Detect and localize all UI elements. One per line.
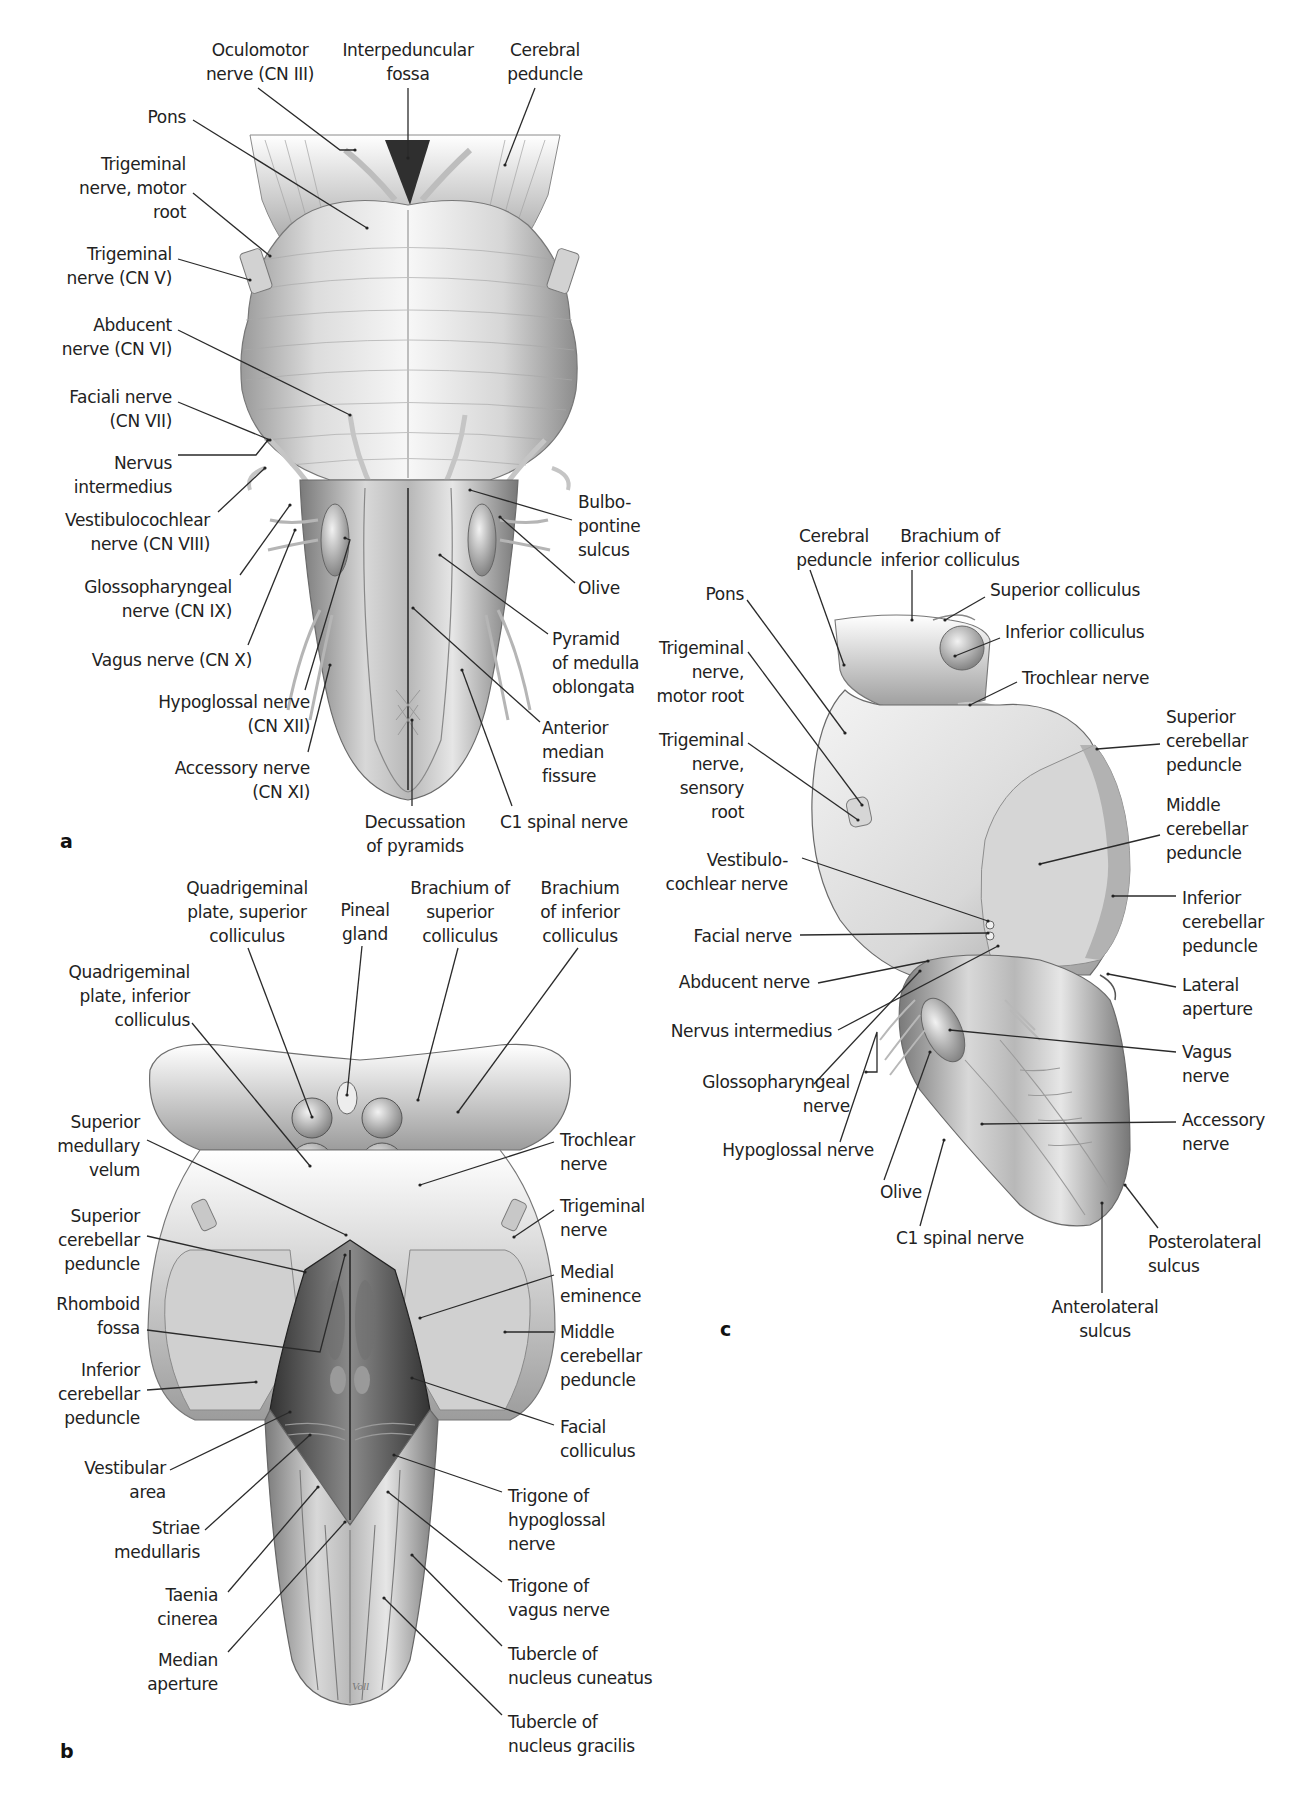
label-c-superior-colliculus-c: Superior colliculus <box>990 578 1190 602</box>
label-b-pineal: Pineal gland <box>330 898 400 946</box>
leader-a-nervus-intermedius <box>178 440 268 455</box>
label-c-anterolateral-c: Anterolateral sulcus <box>1030 1295 1180 1343</box>
label-b-middle-cerebellar-b: Middle cerebellar peduncle <box>560 1320 660 1392</box>
panel-c-illustration <box>812 615 1130 1226</box>
label-b-vestibular-area: Vestibular area <box>40 1456 166 1504</box>
label-a-anterior-median: Anterior median fissure <box>542 716 642 788</box>
label-c-lateral-aperture-c: Lateral aperture <box>1182 973 1302 1021</box>
label-c-vestibulocochlear-c: Vestibulo- cochlear nerve <box>640 848 788 896</box>
label-a-olive: Olive <box>578 576 658 600</box>
label-b-trigone-vagus: Trigone of vagus nerve <box>508 1574 628 1622</box>
label-a-glossopharyngeal: Glossopharyngeal nerve (CN IX) <box>20 575 232 623</box>
label-c-brachium-inf-c: Brachium of inferior colliculus <box>852 524 1048 572</box>
label-c-hypoglossal-c: Hypoglossal nerve <box>640 1138 874 1162</box>
label-a-c1-spinal: C1 spinal nerve <box>500 810 660 834</box>
label-c-inf-cerebellar-c: Inferior cerebellar peduncle <box>1182 886 1302 958</box>
label-a-abducent: Abducent nerve (CN VI) <box>30 313 172 361</box>
panel-letter-b: b <box>60 1740 74 1762</box>
panel-letter-a: a <box>60 830 73 852</box>
label-a-facial: Faciali nerve (CN VII) <box>30 385 172 433</box>
label-c-posterolateral-c: Posterolateral sulcus <box>1148 1230 1288 1278</box>
label-c-accessory-c: Accessory nerve <box>1182 1108 1302 1156</box>
label-b-trigone-hypoglossal: Trigone of hypoglossal nerve <box>508 1484 628 1556</box>
figure-stage: Voll <box>0 0 1312 1804</box>
label-b-qp-inferior: Quadrigeminal plate, inferior colliculus <box>40 960 190 1032</box>
label-b-brachium-inf: Brachium of inferior colliculus <box>530 876 630 948</box>
label-c-trigeminal-sensory-c: Trigeminal nerve, sensory root <box>640 728 744 824</box>
label-c-trigeminal-motor-c: Trigeminal nerve, motor root <box>640 636 744 708</box>
label-b-inf-cerebellar-ped: Inferior cerebellar peduncle <box>40 1358 140 1430</box>
label-a-hypoglossal: Hypoglossal nerve (CN XII) <box>20 690 310 738</box>
leader-a-vestibulocochlear <box>218 468 265 512</box>
label-b-tubercle-cuneatus: Tubercle of nucleus cuneatus <box>508 1642 668 1690</box>
label-c-olive-c: Olive <box>880 1180 940 1204</box>
label-c-sup-cerebellar-c: Superior cerebellar peduncle <box>1166 705 1286 777</box>
panel-letter-c: c <box>720 1318 731 1340</box>
leader-a-trigeminal-motor <box>193 193 270 256</box>
label-a-nervus-intermedius: Nervus intermedius <box>30 451 172 499</box>
label-c-inferior-colliculus-c: Inferior colliculus <box>1005 620 1205 644</box>
leader-c-lateral-aperture-c <box>1108 974 1176 987</box>
label-c-c1-spinal-c: C1 spinal nerve <box>880 1226 1040 1250</box>
label-a-bulbopontine: Bulbo- pontine sulcus <box>578 490 658 562</box>
leader-a-glossopharyngeal <box>240 505 290 575</box>
label-b-medial-eminence: Medial eminence <box>560 1260 660 1308</box>
label-a-cerebral-peduncle: Cerebral peduncle <box>500 38 590 86</box>
label-a-trigeminal-v: Trigeminal nerve (CN V) <box>30 242 172 290</box>
label-a-interpeduncular: Interpeduncular fossa <box>338 38 478 86</box>
label-c-facial-c: Facial nerve <box>640 924 792 948</box>
leader-b-tubercle-cuneatus <box>412 1555 502 1646</box>
label-b-sup-medullary-velum: Superior medullary velum <box>40 1110 140 1182</box>
leader-c-sup-cerebellar-c <box>1097 744 1160 749</box>
artist-signature: Voll <box>352 1680 369 1692</box>
label-b-tubercle-gracilis: Tubercle of nucleus gracilis <box>508 1710 668 1758</box>
label-b-striae: Striae medullaris <box>40 1516 200 1564</box>
leader-c-posterolateral-c <box>1125 1185 1158 1228</box>
leader-a-trigeminal-v <box>178 259 250 280</box>
label-c-vagus-c: Vagus nerve <box>1182 1040 1302 1088</box>
label-b-facial-colliculus: Facial colliculus <box>560 1415 660 1463</box>
label-b-rhomboid: Rhomboid fossa <box>40 1292 140 1340</box>
label-c-nervus-intermedius-c: Nervus intermedius <box>640 1019 832 1043</box>
label-a-vestibulocochlear: Vestibulocochlear nerve (CN VIII) <box>20 508 210 556</box>
label-b-qp-superior: Quadrigeminal plate, superior colliculus <box>182 876 312 948</box>
label-b-sup-cerebellar-ped: Superior cerebellar peduncle <box>40 1204 140 1276</box>
label-c-glossopharyngeal-c: Glossopharyngeal nerve <box>640 1070 850 1118</box>
label-a-vagus: Vagus nerve (CN X) <box>20 648 252 672</box>
label-b-median-aperture: Median aperture <box>40 1648 218 1696</box>
label-b-taenia: Taenia cinerea <box>40 1583 218 1631</box>
leader-c-pons-c <box>747 600 845 733</box>
label-c-trochlear-c: Trochlear nerve <box>1022 666 1222 690</box>
label-a-pons: Pons <box>110 105 186 129</box>
label-b-trigeminal-b: Trigeminal nerve <box>560 1194 660 1242</box>
label-a-decussation: Decussation of pyramids <box>355 810 475 858</box>
label-a-accessory: Accessory nerve (CN XI) <box>20 756 310 804</box>
leader-a-vagus <box>248 530 295 645</box>
label-c-abducent-c: Abducent nerve <box>640 970 810 994</box>
leader-c-olive-c <box>884 1052 930 1180</box>
leader-c-cerebral-peduncle-c <box>810 570 844 665</box>
label-c-pons-c: Pons <box>700 582 744 606</box>
label-b-brachium-sup: Brachium of superior colliculus <box>405 876 515 948</box>
label-a-trigeminal-motor: Trigeminal nerve, motor root <box>40 152 186 224</box>
label-c-middle-cerebellar-c: Middle cerebellar peduncle <box>1166 793 1286 865</box>
label-a-oculomotor: Oculomotor nerve (CN III) <box>200 38 320 86</box>
